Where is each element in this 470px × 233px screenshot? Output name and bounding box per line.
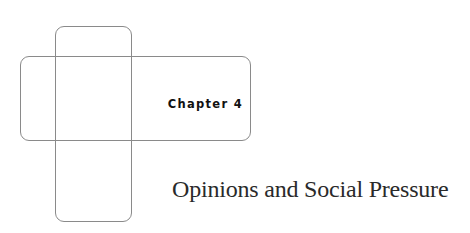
chapter-title: Opinions and Social Pressure [172, 176, 448, 203]
chapter-number-label: Chapter 4 [150, 97, 243, 111]
